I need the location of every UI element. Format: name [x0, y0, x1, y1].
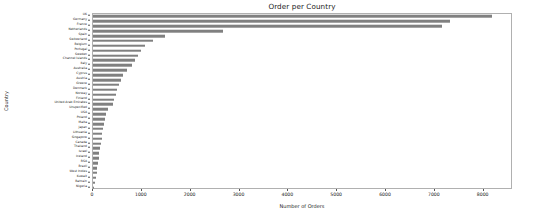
y-tick-mark [88, 128, 90, 129]
bar [93, 59, 135, 62]
y-tick-mark [88, 44, 90, 45]
y-tick-mark [88, 64, 90, 65]
x-tick-label: 8000 [477, 192, 489, 197]
y-tick-label: Nigeria [76, 185, 87, 188]
y-tick-label: UK [83, 14, 87, 17]
y-tick-mark [88, 186, 90, 187]
y-tick-label: Malta [79, 121, 87, 124]
bar [93, 69, 127, 72]
y-tick-mark [88, 74, 90, 75]
bar [93, 74, 123, 77]
bar [93, 181, 95, 184]
y-tick-mark [88, 15, 90, 16]
y-tick-mark [88, 20, 90, 21]
bar [93, 132, 102, 135]
bar [93, 113, 106, 116]
x-tick-mark [483, 189, 484, 191]
y-tick-label: Austria [76, 77, 87, 80]
chart-title: Order per Country [92, 2, 512, 11]
y-tick-mark [88, 162, 90, 163]
bar [93, 172, 97, 175]
y-tick-label: Bahrain [75, 180, 87, 183]
y-tick-mark [88, 35, 90, 36]
y-tick-label: Greece [76, 82, 87, 85]
bar [93, 40, 153, 43]
y-tick-mark [88, 79, 90, 80]
y-tick-label: Sweden [75, 53, 87, 56]
y-tick-label: Kuwait [77, 175, 87, 178]
bar [93, 15, 492, 18]
bar [93, 137, 102, 140]
y-tick-label: Australia [74, 68, 87, 71]
bar [93, 157, 99, 160]
bar [93, 176, 96, 179]
x-tick-label: 7000 [428, 192, 440, 197]
bar [93, 142, 101, 145]
y-tick-label: Denmark [73, 87, 87, 90]
bar-series [93, 14, 511, 188]
y-tick-mark [88, 25, 90, 26]
bar [93, 147, 100, 150]
y-tick-label: Switzerland [69, 38, 87, 41]
y-tick-label: Channel Islands [63, 58, 87, 61]
y-tick-mark [88, 137, 90, 138]
bar [93, 162, 98, 165]
x-tick-label: 5000 [330, 192, 342, 197]
plot-area [92, 13, 512, 189]
y-tick-mark [88, 172, 90, 173]
y-tick-label: Belgium [75, 43, 88, 46]
x-tick-mark [239, 189, 240, 191]
bar [93, 49, 141, 52]
y-tick-label: Israel [79, 151, 87, 154]
y-tick-mark [88, 132, 90, 133]
y-tick-label: Unspecified [69, 107, 87, 110]
bar [93, 54, 138, 57]
y-tick-label: Poland [77, 117, 87, 120]
y-axis-tick-labels: UKGermanyFranceNetherlandsSpainSwitzerla… [0, 13, 90, 189]
x-tick-label: 0 [91, 192, 94, 197]
y-tick-mark [88, 152, 90, 153]
y-tick-label: Iceland [76, 156, 87, 159]
y-tick-mark [88, 142, 90, 143]
y-tick-mark [88, 118, 90, 119]
y-tick-mark [88, 108, 90, 109]
bar [93, 103, 113, 106]
bar [93, 93, 116, 96]
y-tick-mark [88, 93, 90, 94]
x-tick-mark [141, 189, 142, 191]
x-tick-mark [336, 189, 337, 191]
y-tick-label: Cyprus [76, 73, 87, 76]
chart-figure: Order per Country UKGermanyFranceNetherl… [0, 0, 542, 220]
bar [93, 123, 104, 126]
bar [93, 108, 108, 111]
y-tick-label: Spain [78, 33, 87, 36]
y-tick-label: Finland [76, 97, 87, 100]
x-tick-label: 6000 [379, 192, 391, 197]
y-tick-label: USA [81, 112, 87, 115]
y-tick-label: West Indies [69, 170, 87, 173]
x-tick-mark [287, 189, 288, 191]
y-tick-mark [88, 176, 90, 177]
bar [93, 167, 97, 170]
y-tick-label: Italy [80, 63, 87, 66]
x-tick-mark [385, 189, 386, 191]
y-tick-label: Thailand [74, 146, 87, 149]
y-tick-mark [88, 59, 90, 60]
y-tick-mark [88, 69, 90, 70]
x-tick-label: 1000 [135, 192, 147, 197]
y-tick-label: France [77, 24, 87, 27]
y-tick-mark [88, 157, 90, 158]
x-tick-label: 2000 [184, 192, 196, 197]
y-tick-mark [88, 167, 90, 168]
bar [93, 44, 145, 47]
bar [93, 88, 117, 91]
y-tick-label: Germany [73, 19, 87, 22]
bar [93, 20, 450, 23]
bar [93, 35, 165, 38]
x-axis-title: Number of Orders [92, 203, 512, 209]
y-tick-mark [88, 123, 90, 124]
x-tick-label: 3000 [233, 192, 245, 197]
y-tick-label: Brazil [78, 165, 87, 168]
x-tick-mark [434, 189, 435, 191]
y-tick-mark [88, 40, 90, 41]
